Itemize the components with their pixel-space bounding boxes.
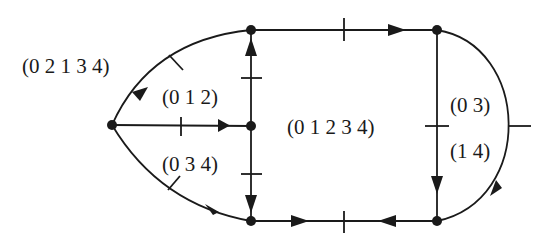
tick-mark	[168, 176, 180, 190]
vertex-m	[246, 121, 256, 131]
tick-mark	[169, 55, 183, 70]
vertex-tr	[432, 25, 442, 35]
vertex-bl	[246, 216, 256, 226]
label-lower-left: (0 3 4)	[162, 152, 218, 176]
arrow-icon	[245, 38, 257, 56]
arrow-icon	[245, 195, 257, 213]
arrow-icon	[378, 215, 396, 227]
ribbon-graph-diagram: (0 2 1 3 4) (0 1 2) (0 3 4) (0 1 2 3 4) …	[0, 0, 551, 245]
arrow-icon	[291, 215, 309, 227]
label-center: (0 1 2 3 4)	[287, 115, 375, 139]
label-outer-left: (0 2 1 3 4)	[22, 54, 110, 78]
vertex-br	[432, 216, 442, 226]
vertex-a	[107, 120, 117, 130]
arrow-icon	[218, 119, 230, 132]
label-right-upper: (0 3)	[450, 93, 490, 117]
arrow-icon	[388, 24, 406, 36]
label-upper-left: (0 1 2)	[162, 85, 218, 109]
edge-tl-to-a	[112, 30, 251, 125]
label-right-lower: (1 4)	[450, 139, 490, 163]
vertex-tl	[246, 25, 256, 35]
arrow-icon	[431, 176, 443, 194]
